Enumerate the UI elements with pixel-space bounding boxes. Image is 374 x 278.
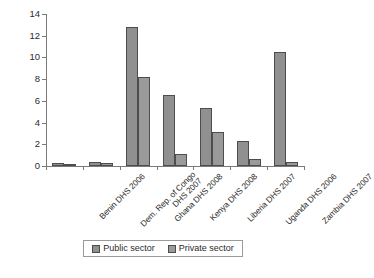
x-tick — [120, 166, 121, 170]
bar-public — [163, 95, 175, 166]
x-tick — [267, 166, 268, 170]
bar-private — [138, 77, 150, 166]
bar-private — [249, 159, 261, 166]
bar-private — [64, 164, 76, 166]
plot-area — [46, 14, 304, 166]
y-tick — [42, 36, 46, 37]
bar-public — [274, 52, 286, 166]
y-tick-label: 4 — [16, 118, 40, 128]
y-axis — [46, 14, 47, 167]
chart-legend: Public sector Private sector — [83, 240, 243, 257]
legend-item-public: Public sector — [92, 244, 155, 253]
y-tick-label: 8 — [16, 74, 40, 84]
legend-swatch-private — [168, 245, 176, 253]
legend-swatch-public — [92, 245, 100, 253]
y-tick-label: 6 — [16, 96, 40, 106]
y-tick-label: 14 — [16, 9, 40, 19]
y-tick — [42, 101, 46, 102]
bar-public — [200, 108, 212, 166]
legend-label-public: Public sector — [103, 244, 155, 253]
bar-public — [126, 27, 138, 166]
bar-private — [286, 162, 298, 166]
x-tick — [230, 166, 231, 170]
y-tick-label: 2 — [16, 139, 40, 149]
y-tick — [42, 57, 46, 58]
bar-private — [101, 163, 113, 166]
y-tick-label: 12 — [16, 31, 40, 41]
x-axis-label: Benin DHS 2006 — [98, 172, 147, 221]
y-tick — [42, 79, 46, 80]
legend-item-private: Private sector — [168, 244, 234, 253]
bar-private — [175, 154, 187, 166]
bar-public — [52, 163, 64, 166]
y-tick-label: 10 — [16, 52, 40, 62]
x-tick — [304, 166, 305, 170]
x-tick — [193, 166, 194, 170]
legend-label-private: Private sector — [179, 244, 234, 253]
x-tick — [83, 166, 84, 170]
x-axis — [46, 166, 304, 167]
x-tick — [157, 166, 158, 170]
y-tick-label: 0 — [16, 161, 40, 171]
bar-public — [237, 141, 249, 167]
bar-public — [89, 162, 101, 166]
y-tick — [42, 144, 46, 145]
y-tick — [42, 123, 46, 124]
bar-private — [212, 132, 224, 166]
y-tick — [42, 14, 46, 15]
x-tick — [46, 166, 47, 170]
